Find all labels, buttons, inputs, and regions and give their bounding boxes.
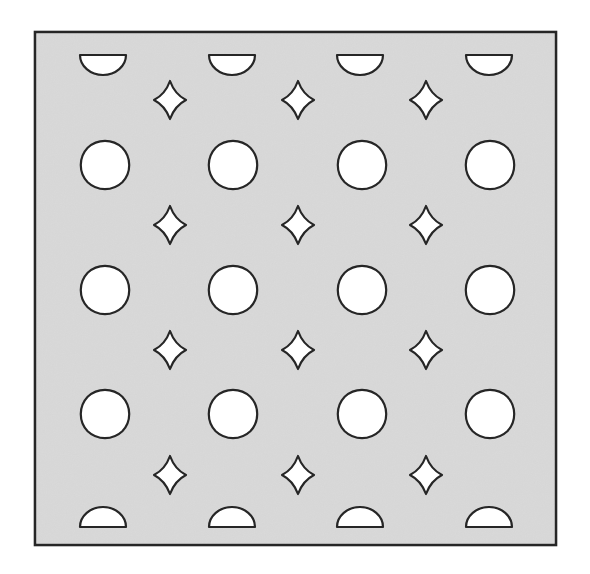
quatrefoil-hole [81, 266, 129, 314]
quatrefoil-hole [209, 390, 257, 438]
figure-root: Decorative perforated panel pattern A sq… [0, 0, 590, 574]
quatrefoil-hole [338, 141, 386, 189]
quatrefoil-hole [466, 390, 514, 438]
quatrefoil-hole [81, 390, 129, 438]
quatrefoil-hole [81, 141, 129, 189]
quatrefoil-hole [338, 390, 386, 438]
perforated-panel-figure: Decorative perforated panel pattern A sq… [0, 0, 590, 574]
quatrefoil-hole [209, 266, 257, 314]
quatrefoil-hole [338, 266, 386, 314]
quatrefoil-hole [209, 141, 257, 189]
quatrefoil-hole [466, 266, 514, 314]
quatrefoil-hole [466, 141, 514, 189]
